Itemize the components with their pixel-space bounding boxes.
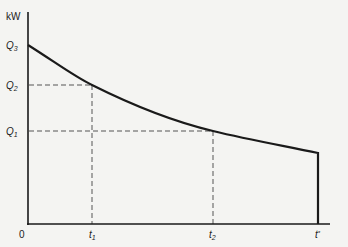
tick-label-t2: t2 bbox=[209, 229, 216, 241]
tick-label-q2: Q2 bbox=[6, 80, 18, 92]
chart-svg: kW Q3 Q2 Q1 0 t1 t2 t* bbox=[0, 0, 348, 247]
tick-label-q1: Q1 bbox=[6, 126, 18, 138]
load-duration-chart: kW Q3 Q2 Q1 0 t1 t2 t* bbox=[0, 0, 348, 247]
guide-lines bbox=[29, 85, 213, 224]
tick-label-q3: Q3 bbox=[6, 40, 18, 52]
tick-label-origin: 0 bbox=[19, 229, 25, 240]
load-curve bbox=[28, 45, 318, 224]
tick-label-t1: t1 bbox=[89, 229, 96, 241]
y-unit-label: kW bbox=[6, 11, 21, 22]
tick-label-tstar: t* bbox=[315, 229, 321, 240]
